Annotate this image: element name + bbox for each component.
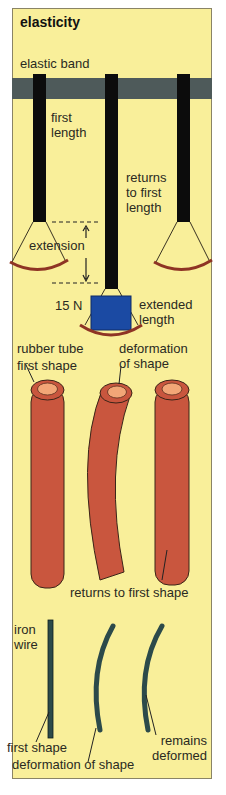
wire-first-shape bbox=[48, 620, 53, 738]
weight-15n bbox=[91, 296, 131, 330]
label-elastic-band: elastic band bbox=[20, 56, 89, 71]
label-first-length: first length bbox=[51, 110, 86, 140]
label-tube-returns: returns to first shape bbox=[70, 585, 189, 600]
label-extended-length: extended length bbox=[139, 297, 193, 327]
label-returns-first-length: returns to first length bbox=[126, 170, 166, 215]
elasticity-diagram bbox=[0, 0, 226, 795]
pan-strings-3 bbox=[156, 222, 210, 262]
extension-arrow-down bbox=[83, 258, 89, 281]
wire-remains-deformed bbox=[144, 626, 162, 730]
extension-arrow-up bbox=[83, 226, 89, 238]
band-first-length bbox=[33, 74, 46, 222]
band-returns bbox=[177, 74, 190, 222]
diagram-title: elasticity bbox=[20, 14, 80, 30]
label-wire-remains-deformed: remains deformed bbox=[152, 733, 207, 763]
pan-rim-3 bbox=[154, 260, 212, 270]
label-rubber-tube: rubber tube bbox=[17, 341, 84, 356]
pan-rim-1 bbox=[10, 260, 68, 270]
tube-deformed bbox=[87, 383, 132, 580]
label-tube-first-shape: first shape bbox=[17, 358, 77, 373]
label-weight: 15 N bbox=[55, 298, 82, 313]
band-extended bbox=[105, 74, 118, 289]
label-wire-deformation: deformation of shape bbox=[12, 757, 134, 772]
label-wire-first-shape: first shape bbox=[7, 740, 67, 755]
tube-first-shape bbox=[31, 380, 64, 588]
label-iron-wire: iron wire bbox=[14, 622, 38, 652]
wire-deformed bbox=[96, 626, 113, 730]
label-tube-deformation: deformation of shape bbox=[119, 341, 188, 371]
label-extension: extension bbox=[29, 238, 85, 253]
tube-returns bbox=[155, 380, 189, 585]
